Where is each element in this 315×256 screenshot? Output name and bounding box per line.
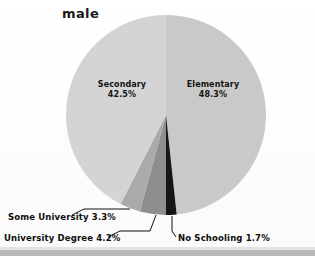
pie-label-secondary-name: Secondary [87, 80, 157, 90]
pie-callout-some-university: Some University 3.3% [8, 212, 116, 222]
leader-line-no-schooling [172, 216, 176, 237]
pie-label-elementary-value: 48.3% [177, 90, 249, 100]
pie-label-secondary-value: 42.5% [87, 90, 157, 100]
pie-callout-no-schooling: No Schooling 1.7% [178, 233, 270, 243]
pie-label-elementary-name: Elementary [177, 80, 249, 90]
pie-callout-university-degree: University Degree 4.2% [4, 233, 120, 243]
bottom-rule [0, 250, 315, 256]
pie-slice-elementary[interactable] [166, 15, 266, 214]
pie-label-elementary: Elementary 48.3% [177, 80, 249, 100]
pie-label-secondary: Secondary 42.5% [87, 80, 157, 100]
pie-chart-screenshot: male Secondary 42.5% Elementary 48.3% So… [0, 0, 315, 256]
